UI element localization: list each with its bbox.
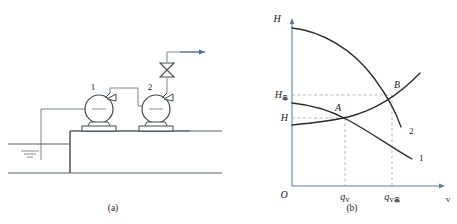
pump-one: 1 xyxy=(82,82,116,131)
x-axis-title: V xyxy=(446,196,451,203)
pump-two-label: 2 xyxy=(148,82,153,92)
x-tick-qv-sub: V xyxy=(345,196,350,203)
x-tick-qv-series-sub2: 串 xyxy=(394,196,400,204)
panel-a-caption: (a) xyxy=(108,203,119,214)
curve-pipeline-resistance xyxy=(292,73,420,125)
y-tick-label-h: H xyxy=(280,112,289,123)
water-surface-icon xyxy=(21,151,39,157)
pump-two: 2 xyxy=(139,82,173,131)
pump-one-baseplate xyxy=(82,126,116,131)
origin-label: O xyxy=(280,189,287,200)
curve-label-1: 1 xyxy=(419,153,424,163)
pump-two-baseplate xyxy=(139,126,173,131)
suction-pipe xyxy=(41,109,89,160)
pump-one-label: 1 xyxy=(91,82,96,92)
curve-label-2: 2 xyxy=(409,126,414,136)
x-axis-arrowhead xyxy=(439,184,445,189)
x-tick-label-qv-series: qV串 xyxy=(384,191,400,204)
panel-b-chart: A B 2 1 H H串 H O qV qV串 xyxy=(272,13,450,214)
y-tick-label-h-series: H串 xyxy=(274,89,288,102)
discharge-riser-upper xyxy=(167,52,200,62)
foundation-block xyxy=(70,131,190,173)
curve-series-pumps xyxy=(292,28,401,127)
y-tick-h-series-sub: 串 xyxy=(282,94,288,102)
figure-svg: 1 2 xyxy=(0,0,457,224)
operating-point-b-label: B xyxy=(394,79,400,90)
x-tick-label-qv: qV xyxy=(340,191,350,203)
flow-arrow-icon xyxy=(180,50,205,55)
operating-point-a-label: A xyxy=(334,102,342,113)
figure-root: 1 2 xyxy=(0,0,457,224)
y-axis-title: H xyxy=(272,13,281,24)
x-axis-title-sub: V xyxy=(446,196,451,203)
panel-a-schematic: 1 2 xyxy=(8,50,222,215)
panel-b-caption: (b) xyxy=(346,203,357,214)
gate-valve-icon xyxy=(160,63,174,77)
y-axis-arrowhead xyxy=(290,18,295,24)
